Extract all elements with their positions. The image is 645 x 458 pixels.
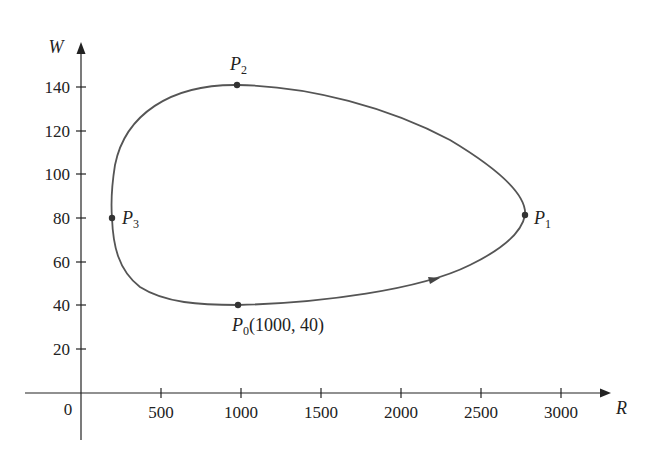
y-tick-label: 60	[53, 253, 70, 272]
y-tick-labels: 140 120 100 80 60 40 20	[45, 78, 71, 359]
y-tick-label: 100	[45, 165, 71, 184]
x-tick-label: 2000	[384, 403, 418, 422]
x-tick-label: 500	[148, 403, 174, 422]
point-p1	[522, 212, 528, 218]
label-p2: P2	[229, 54, 247, 77]
direction-arrow-icon	[428, 277, 440, 284]
origin-label: 0	[64, 400, 73, 419]
point-p2	[234, 82, 240, 88]
x-axis-arrow-icon	[600, 389, 611, 398]
x-tick-label: 3000	[544, 403, 578, 422]
y-tick-label: 80	[53, 209, 70, 228]
trajectory-curve	[111, 85, 525, 305]
point-p3	[109, 215, 115, 221]
x-tick-label: 1000	[224, 403, 258, 422]
label-p1: P1	[533, 208, 551, 231]
y-axis-title: W	[49, 37, 66, 57]
y-tick-label: 20	[53, 340, 70, 359]
y-tick-label: 120	[45, 122, 71, 141]
x-tick-label: 2500	[464, 403, 498, 422]
y-tick-label: 140	[45, 78, 71, 97]
label-p0: P0(1000, 40)	[231, 315, 324, 338]
label-p3: P3	[121, 208, 139, 231]
y-tick-label: 40	[53, 296, 70, 315]
point-p0	[235, 302, 241, 308]
x-tick-labels: 500 1000 1500 2000 2500 3000	[148, 403, 578, 422]
x-tick-label: 1500	[304, 403, 338, 422]
x-axis-title: R	[615, 398, 627, 418]
y-axis-arrow-icon	[77, 42, 86, 54]
phase-plot: 500 1000 1500 2000 2500 3000 R 0 140 120…	[0, 0, 645, 458]
